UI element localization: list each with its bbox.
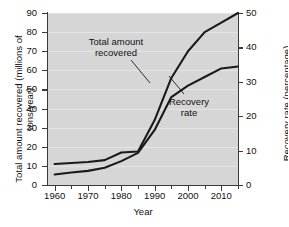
annotation-total-line1: Total amount	[78, 36, 154, 47]
annotation-recovery-rate: Recovery rate	[163, 96, 215, 118]
annotation-total-line2: recovered	[78, 47, 154, 58]
recycling-chart-figure: 0102030405060708090 01020304050 19601970…	[0, 0, 288, 227]
y-axis-right-title: Recovery rate (percentage)	[281, 18, 289, 190]
x-axis-title: Year	[48, 206, 238, 217]
series-line-recovery-rate	[55, 67, 238, 175]
data-curves	[0, 0, 288, 227]
leader-line-recovery-rate	[169, 76, 184, 94]
annotation-rate-line1: Recovery	[163, 96, 215, 107]
annotation-rate-line2: rate	[163, 107, 215, 118]
annotation-total-amount: Total amount recovered	[78, 36, 154, 58]
leader-line-total-amount	[131, 60, 150, 83]
y-axis-left-title: Total amount recovered (millions of tons…	[13, 23, 35, 195]
